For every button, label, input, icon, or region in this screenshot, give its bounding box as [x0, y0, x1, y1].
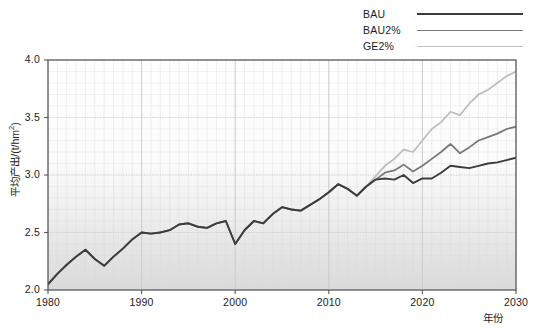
x-tick-2000: 2000 — [215, 296, 255, 308]
y-axis-title-tail: ) — [9, 122, 21, 126]
chart-legend: BAU BAU2% GE2% — [363, 6, 523, 54]
chart-figure: BAU BAU2% GE2% 2.02.53.03. — [0, 0, 535, 329]
y-axis-title: 平均产出/(t/hm2) — [7, 100, 22, 220]
y-tick-2.5: 2.5 — [14, 226, 40, 238]
legend-label-bau: BAU — [363, 8, 413, 20]
legend-swatch-bau — [417, 13, 523, 15]
legend-swatch-bau2 — [417, 30, 523, 31]
y-axis-title-text: 平均产出/(t/hm — [9, 130, 21, 197]
x-tick-2030: 2030 — [496, 296, 535, 308]
x-axis-title: 年份 — [470, 310, 516, 325]
y-axis-title-sup: 2 — [7, 126, 16, 130]
legend-swatch-ge2 — [417, 46, 523, 47]
y-tick-4.0: 4.0 — [14, 53, 40, 65]
y-tick-2.0: 2.0 — [14, 283, 40, 295]
legend-label-ge2: GE2% — [363, 40, 413, 52]
x-tick-2010: 2010 — [309, 296, 349, 308]
legend-label-bau2: BAU2% — [363, 24, 413, 36]
legend-item-bau: BAU — [363, 6, 523, 22]
x-tick-1980: 1980 — [28, 296, 68, 308]
x-tick-1990: 1990 — [122, 296, 162, 308]
legend-item-bau2: BAU2% — [363, 22, 523, 38]
x-tick-2020: 2020 — [402, 296, 442, 308]
legend-item-ge2: GE2% — [363, 38, 523, 54]
